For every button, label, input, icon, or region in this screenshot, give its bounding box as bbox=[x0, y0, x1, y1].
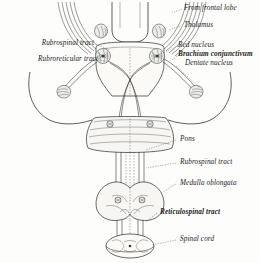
label-red-nucleus: Red nucleus bbox=[178, 41, 214, 49]
dentate-nucleus-right bbox=[189, 85, 203, 98]
thalamus-right bbox=[153, 24, 166, 38]
pons bbox=[86, 117, 173, 155]
spinal-cord bbox=[106, 234, 154, 258]
label-rubrospinal-tract-lower: Rubrospinal tract bbox=[180, 158, 232, 166]
label-pons: Pons bbox=[180, 135, 195, 143]
medulla-oblongata bbox=[96, 182, 164, 221]
label-reticulospinal-tract: Reticulospinal tract bbox=[160, 208, 220, 216]
diagram-illustration: .st { fill:none; stroke:#2a2a28; stroke-… bbox=[0, 0, 260, 263]
cerebellum-outline-left bbox=[29, 72, 92, 124]
third-ventricle bbox=[112, 2, 148, 42]
cerebellum-outline-right bbox=[168, 72, 231, 124]
anatomical-figure: .st { fill:none; stroke:#2a2a28; stroke-… bbox=[0, 0, 260, 263]
label-rubrospinal-tract-upper: Rubrospinal tract bbox=[42, 39, 94, 47]
label-medulla-oblongata: Medulla oblongata bbox=[180, 179, 237, 187]
label-brachium-conjunctivum: Brachium conjunctivum bbox=[178, 50, 253, 58]
label-dentate-nucleus: Dentate nucleus bbox=[185, 59, 233, 67]
thalamus-left bbox=[95, 24, 108, 38]
label-spinal-cord: Spinal cord bbox=[180, 235, 214, 243]
dentate-nucleus-left bbox=[57, 85, 71, 98]
label-rubroreticular-tract: Rubroreticular tract bbox=[38, 55, 98, 63]
label-thalamus: Thalamus bbox=[184, 21, 213, 29]
label-from-frontal-lobe: From frontal lobe bbox=[184, 4, 237, 12]
